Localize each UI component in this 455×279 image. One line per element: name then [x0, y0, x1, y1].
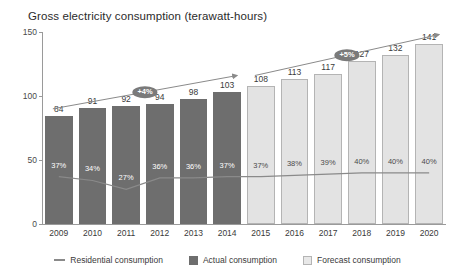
x-tick-label-2018: 2018 [345, 228, 379, 238]
legend-item-actual-consumption[interactable]: Actual consumption [189, 255, 277, 265]
legend-box-swatch-icon [189, 256, 198, 265]
x-tick-label-2017: 2017 [311, 228, 345, 238]
y-tick-label: 0 [32, 219, 37, 229]
legend-item-forecast-consumption[interactable]: Forecast consumption [303, 255, 401, 265]
x-tick-label-2019: 2019 [379, 228, 413, 238]
chart-legend: Residential consumptionActual consumptio… [0, 255, 455, 265]
actual-growth-arrow-badge: +4% [132, 86, 157, 98]
x-tick-label-2010: 2010 [76, 228, 110, 238]
y-tick-label: 50 [28, 155, 37, 165]
forecast-growth-arrow-badge: +5% [334, 49, 359, 61]
x-tick-label-2011: 2011 [109, 228, 143, 238]
x-axis-labels: 2009201020112012201320142015201620172018… [42, 228, 446, 242]
legend-line-swatch-icon [54, 259, 65, 261]
legend-item-residential-consumption[interactable]: Residential consumption [54, 255, 163, 265]
plot-area: 050100150 8437%9134%9227%9436%9836%10337… [42, 32, 446, 224]
x-tick-label-2014: 2014 [210, 228, 244, 238]
x-tick-label-2013: 2013 [177, 228, 211, 238]
y-tick-mark [39, 224, 42, 225]
x-tick-label-2009: 2009 [42, 228, 76, 238]
x-tick-label-2016: 2016 [278, 228, 312, 238]
y-tick-label: 150 [23, 27, 37, 37]
legend-label: Residential consumption [70, 255, 163, 265]
chart-title: Gross electricity consumption (terawatt-… [28, 10, 267, 22]
legend-label: Forecast consumption [317, 255, 401, 265]
x-tick-label-2020: 2020 [412, 228, 446, 238]
legend-box-swatch-icon [303, 256, 312, 265]
residential-line-path [59, 173, 429, 190]
legend-label: Actual consumption [203, 255, 277, 265]
x-tick-label-2012: 2012 [143, 228, 177, 238]
y-tick-label: 100 [23, 91, 37, 101]
residential-consumption-line [42, 32, 446, 224]
x-tick-label-2015: 2015 [244, 228, 278, 238]
x-axis-line [42, 224, 446, 225]
